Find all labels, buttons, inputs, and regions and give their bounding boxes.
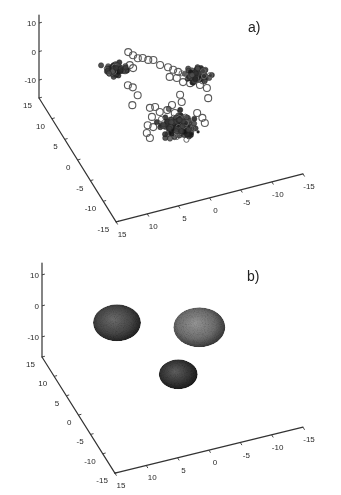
- x-tick-label: -15: [303, 435, 315, 444]
- panel-a-scatter-plot: 100-10151050-5-10-15151050-5-10-15 a): [23, 15, 315, 239]
- outlier-point: [196, 130, 199, 133]
- dense-cluster: [179, 65, 214, 86]
- z-tick-label: 0: [32, 48, 37, 57]
- cluster-point: [167, 126, 172, 131]
- z-tick-label: 0: [35, 302, 40, 311]
- ellipsoid-cluster-2: [173, 307, 225, 347]
- open-circle-point: [148, 113, 155, 120]
- panel-label-a: a): [248, 19, 260, 35]
- figure: 100-10151050-5-10-15151050-5-10-15 a) 10…: [0, 0, 341, 495]
- cluster-point: [179, 128, 184, 133]
- x-tick-label: -10: [272, 443, 284, 452]
- open-circle-point: [177, 91, 184, 98]
- z-tick-label: -10: [27, 333, 39, 342]
- y-tick-mark: [54, 376, 57, 377]
- figure-content: 100-10151050-5-10-15151050-5-10-15 a) 10…: [23, 15, 315, 490]
- y-tick-label: 10: [38, 379, 47, 388]
- x-tick-label: 10: [149, 222, 158, 231]
- y-tick-label: 15: [26, 360, 35, 369]
- cluster-point: [174, 129, 179, 134]
- cluster-point: [123, 65, 128, 70]
- y-tick-label: -15: [96, 476, 108, 485]
- open-circle-point: [157, 61, 164, 68]
- open-circle-point: [150, 57, 157, 64]
- cluster-point: [106, 71, 111, 76]
- cluster-point: [162, 132, 167, 137]
- y-tick-label: -5: [76, 437, 84, 446]
- y-tick-mark: [91, 434, 94, 435]
- x-tick-mark: [303, 174, 305, 177]
- y-tick-label: -5: [76, 184, 84, 193]
- ellipsoid-cluster-3: [159, 359, 198, 389]
- open-circle-point: [178, 99, 185, 106]
- cluster-point: [192, 121, 197, 126]
- open-circle-point: [203, 84, 210, 91]
- cluster-point: [202, 79, 207, 84]
- cluster-point: [154, 119, 159, 124]
- x-tick-label: 0: [213, 458, 218, 467]
- cluster-point: [177, 117, 182, 122]
- x-tick-label: 5: [181, 466, 186, 475]
- cluster-point: [169, 120, 174, 125]
- y-tick-mark: [65, 139, 68, 140]
- cluster-point: [180, 123, 185, 128]
- panel-b-ellipsoid-plot: 100-10151050-5-10-15151050-5-10-15 b): [26, 263, 315, 490]
- dense-cluster: [154, 106, 198, 142]
- y-tick-label: 5: [53, 142, 58, 151]
- cluster-point: [186, 127, 191, 132]
- panel-label-b: b): [247, 268, 259, 284]
- x-tick-label: -15: [303, 182, 315, 191]
- y-tick-label: 0: [66, 163, 71, 172]
- cluster-point: [166, 106, 171, 111]
- cluster-point: [192, 116, 197, 121]
- cluster-point: [184, 115, 189, 120]
- y-tick-mark: [52, 118, 55, 119]
- x-tick-label: 5: [182, 214, 187, 223]
- cluster-point: [193, 77, 198, 82]
- y-tick-mark: [103, 201, 106, 202]
- y-tick-label: 5: [55, 399, 60, 408]
- cluster-point: [98, 63, 103, 68]
- x-tick-label: 10: [148, 473, 157, 482]
- open-circle-point: [205, 95, 212, 102]
- cluster-point: [178, 107, 183, 112]
- open-circle-point: [166, 73, 173, 80]
- y-tick-label: -10: [85, 204, 97, 213]
- x-tick-label: 15: [116, 481, 125, 490]
- y-tick-mark: [78, 159, 81, 160]
- cluster-point: [114, 65, 119, 70]
- x-tick-label: -5: [243, 451, 251, 460]
- open-circle-point: [129, 102, 136, 109]
- panel-b-ellipsoids: [93, 304, 225, 389]
- cluster-point: [184, 137, 189, 142]
- panel-a-data-points: [98, 49, 214, 143]
- y-tick-label: -10: [84, 457, 96, 466]
- z-tick-label: -10: [24, 76, 36, 85]
- open-circle-point: [156, 109, 163, 116]
- y-tick-label: 15: [23, 101, 32, 110]
- x-tick-label: 15: [118, 230, 127, 239]
- y-tick-mark: [78, 414, 81, 415]
- cluster-point: [169, 131, 174, 136]
- dense-cluster: [98, 60, 129, 80]
- y-tick-label: -15: [98, 225, 110, 234]
- open-circle-point: [134, 92, 141, 99]
- x-tick-label: -5: [243, 198, 251, 207]
- z-tick-label: 10: [30, 271, 39, 280]
- z-tick-label: 10: [27, 19, 36, 28]
- y-tick-label: 0: [67, 418, 72, 427]
- ellipsoid-cluster-1: [93, 304, 141, 341]
- x-tick-label: -10: [272, 190, 284, 199]
- x-tick-label: 0: [213, 206, 218, 215]
- y-tick-mark: [103, 453, 106, 454]
- y-tick-label: 10: [36, 122, 45, 131]
- y-tick-mark: [66, 395, 69, 396]
- x-tick-mark: [303, 427, 305, 430]
- cluster-point: [118, 68, 123, 73]
- y-tick-mark: [90, 180, 93, 181]
